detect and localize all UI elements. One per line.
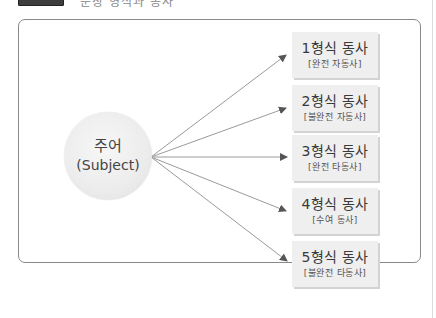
verb-title: 4형식 동사 bbox=[301, 195, 368, 214]
verb-box-5: 5형식 동사 [불완전 타동사] bbox=[292, 241, 378, 287]
verb-subtitle: [불완전 자동사] bbox=[304, 111, 366, 124]
verb-title: 5형식 동사 bbox=[301, 248, 368, 267]
subject-korean-label: 주어 bbox=[94, 137, 122, 156]
verb-title: 3형식 동사 bbox=[301, 142, 368, 161]
arrow-to-verb-5 bbox=[151, 157, 287, 261]
verb-subtitle: [완전 타동사] bbox=[308, 161, 362, 174]
subject-english-label: (Subject) bbox=[76, 156, 139, 175]
verb-subtitle: [완전 자동사] bbox=[308, 58, 362, 71]
arrow-to-verb-2 bbox=[151, 108, 286, 157]
verb-title: 2형식 동사 bbox=[301, 92, 368, 111]
verb-box-1: 1형식 동사 [완전 자동사] bbox=[292, 32, 378, 78]
verb-box-3: 3형식 동사 [완전 타동사] bbox=[292, 135, 378, 181]
verb-subtitle: [불완전 타동사] bbox=[304, 267, 366, 280]
verb-subtitle: [수여 동사] bbox=[312, 214, 357, 227]
verb-title: 1형식 동사 bbox=[301, 39, 368, 58]
verb-box-2: 2형식 동사 [불완전 자동사] bbox=[292, 85, 378, 131]
arrow-to-verb-4 bbox=[151, 157, 286, 211]
subject-node: 주어 (Subject) bbox=[64, 112, 152, 200]
arrow-to-verb-1 bbox=[151, 55, 286, 157]
verb-box-4: 4형식 동사 [수여 동사] bbox=[292, 188, 378, 234]
